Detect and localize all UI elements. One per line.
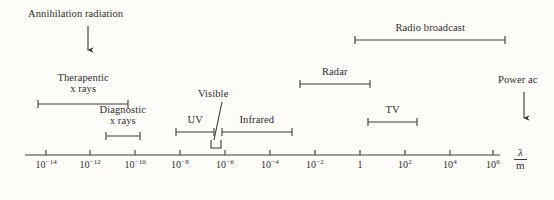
axis-tick-label-1: 10−12 — [80, 160, 101, 171]
axis-tick-label-6: 10−2 — [306, 160, 324, 171]
infrared-label: Infrared — [240, 114, 275, 125]
visible-bracket — [211, 140, 221, 148]
axis-tick-label-0: 10−14 — [36, 160, 57, 171]
radar-label: Radar — [322, 66, 348, 77]
visible-label: Visible — [198, 88, 228, 99]
wavelength-axis — [25, 150, 500, 155]
diagnostic-x-rays-label: Diagnosticx rays — [100, 104, 147, 127]
axis-tick-label-2: 10−10 — [125, 160, 146, 171]
axis-tick-label-4: 10−6 — [216, 160, 234, 171]
axis-tick-label-7: 1 — [358, 160, 363, 171]
axis-tick-label-10: 106 — [486, 160, 500, 171]
therapeutic-x-rays-label: Therapenticx rays — [58, 72, 109, 95]
axis-unit-numerator: λ — [514, 147, 527, 159]
diagnostic-x-rays-label-line2: x rays — [100, 115, 147, 126]
annihilation-radiation-label: Annihilation radiation — [28, 8, 123, 19]
spectrum-figure: 10−1410−1210−1010−810−610−410−2110210410… — [0, 0, 554, 200]
band-markers — [38, 26, 524, 148]
therapeutic-x-rays-label-line1: Therapentic — [58, 72, 109, 83]
ultraviolet-label: UV — [188, 114, 203, 125]
tv-label: TV — [386, 104, 400, 115]
diagnostic-x-rays-label-line1: Diagnostic — [100, 104, 147, 115]
visible-leader-line — [214, 102, 222, 140]
axis-tick-label-3: 10−8 — [171, 160, 189, 171]
axis-unit-label: λm — [514, 147, 527, 172]
therapeutic-x-rays-label-line2: x rays — [58, 83, 109, 94]
axis-tick-label-9: 104 — [443, 160, 457, 171]
axis-tick-label-8: 102 — [398, 160, 412, 171]
radio-broadcast-label: Radio broadcast — [396, 22, 465, 33]
power-ac-label: Power ac — [498, 74, 538, 85]
axis-tick-label-5: 10−4 — [261, 160, 279, 171]
axis-unit-denominator: m — [514, 159, 527, 172]
